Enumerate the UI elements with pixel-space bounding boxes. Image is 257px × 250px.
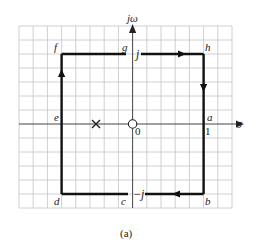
point-label-e: e	[54, 111, 59, 123]
imag-axis-label: jω	[125, 12, 138, 24]
point-label-c: c	[121, 195, 126, 207]
figure-caption: (a)	[120, 227, 133, 240]
point-label-d: d	[54, 195, 60, 207]
point-label-g: g	[122, 41, 128, 53]
unit-label: 1	[205, 125, 211, 137]
s-plane-figure: jω σ 0 1 j −j f g h e a d c b (a)	[0, 0, 257, 250]
origin-label: 0	[135, 125, 141, 137]
arrow-right-icon	[178, 51, 186, 58]
point-label-f: f	[54, 41, 59, 53]
imag-axis-arrow-icon	[129, 24, 136, 33]
arrow-down-icon	[200, 84, 207, 92]
point-label-a: a	[207, 111, 213, 123]
arrow-up-icon	[58, 69, 65, 77]
point-label-b: b	[205, 195, 211, 207]
point-label-h: h	[205, 41, 211, 53]
neg-j-label: −j	[133, 187, 145, 201]
arrow-left-icon	[172, 191, 180, 198]
